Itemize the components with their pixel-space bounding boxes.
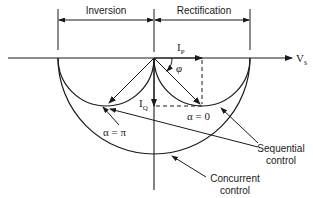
sequential-line2: control — [252, 155, 310, 167]
phi-angle-arc — [167, 58, 172, 71]
annotation-pointers — [103, 107, 258, 177]
sequential-line1: Sequential — [252, 143, 310, 155]
diagram-graphics — [0, 0, 313, 198]
rectification-label: Rectification — [164, 6, 244, 16]
phi-label: φ — [176, 63, 182, 74]
ip-sub: P — [181, 48, 185, 56]
vs-sub: s — [304, 58, 307, 67]
iq-label: IQ — [139, 98, 148, 112]
vs-main: V — [296, 52, 304, 64]
ip-label: IP — [177, 42, 185, 56]
power-factor-diagram: Inversion Rectification Vs IP IQ φ α = π… — [0, 0, 313, 198]
sequential-control-label: Sequential control — [252, 143, 310, 167]
concurrent-line2: control — [200, 185, 270, 197]
alpha-pi-label: α = π — [103, 127, 126, 138]
alpha-zero-label: α = 0 — [187, 111, 210, 122]
iq-sub: Q — [143, 104, 148, 112]
current-vector-inversion — [109, 58, 154, 103]
sequential-pointer-left — [110, 109, 258, 147]
sequential-pointer-right — [221, 108, 258, 143]
inversion-label: Inversion — [78, 6, 134, 16]
concurrent-line1: Concurrent — [200, 173, 270, 185]
concurrent-control-label: Concurrent control — [200, 173, 270, 197]
vs-label: Vs — [296, 53, 307, 67]
